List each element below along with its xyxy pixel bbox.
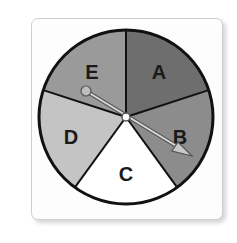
label-d: D bbox=[64, 126, 78, 148]
label-a: A bbox=[152, 61, 166, 83]
label-c: C bbox=[119, 163, 133, 185]
pointer-tail-knob bbox=[81, 86, 91, 96]
pivot-icon bbox=[122, 113, 130, 121]
spinner-wheel[interactable]: A B C D E bbox=[0, 0, 237, 243]
label-e: E bbox=[85, 61, 98, 83]
